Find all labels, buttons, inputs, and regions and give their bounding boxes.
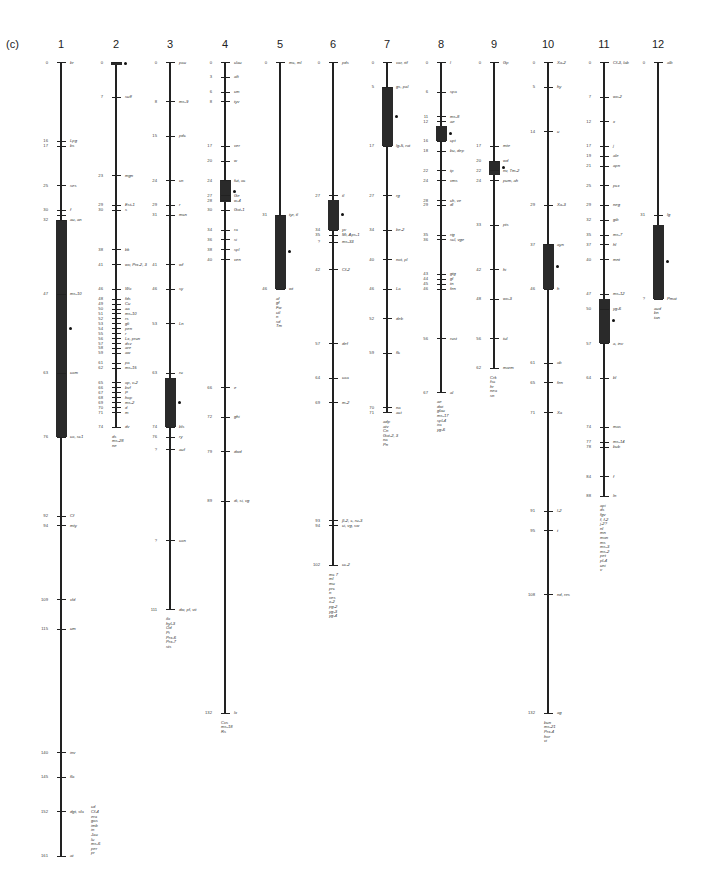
marker-tick — [112, 62, 121, 63]
unmapped-gene-list: cd Cf-4 era gas imb in Jau lu ms-6 per p… — [91, 805, 100, 856]
marker-position: 89 — [192, 498, 212, 503]
marker-position: 36 — [192, 237, 212, 242]
gene-label: vld — [70, 597, 75, 602]
marker-tick — [437, 116, 446, 117]
marker-position: 42 — [300, 267, 320, 272]
marker-tick — [112, 313, 121, 314]
marker-position: 24 — [408, 178, 428, 183]
gene-label: l-2 — [557, 508, 562, 513]
marker-position: 47 — [28, 291, 48, 296]
centromere-block — [328, 200, 339, 230]
marker-tick — [57, 752, 66, 753]
gene-label: pcx — [613, 183, 620, 188]
marker-position: 29 — [137, 202, 157, 207]
marker-tick — [112, 264, 121, 265]
gene-label: dl — [450, 202, 453, 207]
marker-position: 46 — [247, 286, 267, 291]
marker-tick — [166, 540, 175, 541]
marker-position: 65 — [515, 380, 535, 385]
marker-position: 25 — [28, 183, 48, 188]
marker-position: 5 — [515, 84, 535, 89]
gene-label: act — [396, 410, 402, 415]
marker-tick — [112, 343, 121, 344]
marker-tick — [329, 565, 338, 566]
gene-label: lx — [234, 710, 237, 715]
gene-label: ms-10 — [70, 291, 82, 296]
gene-label: tyv — [234, 99, 239, 104]
marker-tick — [112, 97, 121, 98]
marker-tick — [600, 343, 609, 344]
gene-label: Xa — [557, 410, 562, 415]
marker-position: 24 — [461, 178, 481, 183]
unmapped-gene-list: af gf Fw ctl n sd Tm — [276, 297, 282, 329]
centromere-marker-dot — [612, 319, 615, 322]
marker-position: 30 — [83, 207, 103, 212]
marker-position: 32 — [28, 217, 48, 222]
marker-tick — [654, 215, 663, 216]
marker-tick — [600, 121, 609, 122]
gene-label: dw, pf, vit — [179, 607, 196, 612]
marker-tick — [57, 220, 66, 221]
gene-label: spl — [234, 247, 239, 252]
marker-position: 27 — [354, 193, 374, 198]
marker-tick — [600, 97, 609, 98]
marker-position: 71 — [83, 410, 103, 415]
unmapped-gene-list: mc 7 ml mu prc n ves x-2 pg-2 yg-3 yg-4 — [329, 573, 338, 619]
marker-tick — [600, 235, 609, 236]
gene-label: fla — [70, 774, 74, 779]
gene-label: neg — [613, 202, 620, 207]
gene-label: ln — [613, 493, 616, 498]
marker-position: 0 — [515, 60, 535, 65]
marker-position: 46 — [354, 286, 374, 291]
marker-position: 91 — [515, 508, 535, 513]
gene-label: bs — [70, 143, 74, 148]
chromosome-axis — [547, 62, 548, 713]
gene-label: Xa-2 — [557, 60, 566, 65]
marker-tick — [57, 62, 66, 63]
marker-position: 30 — [28, 207, 48, 212]
chromosome-title: 2 — [113, 38, 119, 50]
marker-tick — [57, 294, 66, 295]
chromosome-axis — [115, 62, 116, 427]
panel-label: (c) — [6, 38, 19, 50]
marker-tick — [221, 713, 230, 714]
marker-tick — [383, 87, 392, 88]
gene-label: ra — [234, 227, 238, 232]
marker-tick — [600, 146, 609, 147]
marker-position: 20 — [461, 158, 481, 163]
marker-position: 132 — [192, 710, 212, 715]
gene-label: nv, Tm-2 — [503, 168, 519, 173]
marker-tick — [112, 323, 121, 324]
marker-tick — [57, 215, 66, 216]
marker-tick — [437, 92, 446, 93]
marker-tick — [57, 146, 66, 147]
gene-label: m — [125, 410, 129, 415]
marker-tick — [221, 161, 230, 162]
marker-position: 71 — [515, 410, 535, 415]
marker-tick — [544, 289, 553, 290]
gene-label: aft — [234, 74, 239, 79]
marker-position: 8 — [137, 99, 157, 104]
marker-tick — [221, 77, 230, 78]
gene-label: mgn — [125, 173, 133, 178]
marker-tick — [221, 230, 230, 231]
marker-position: 76 — [28, 434, 48, 439]
gene-label: tp — [450, 168, 454, 173]
gene-label: wf — [179, 262, 183, 267]
marker-tick — [544, 713, 553, 714]
marker-position: 12 — [571, 119, 591, 124]
marker-tick — [490, 225, 499, 226]
gene-label: mcn — [179, 212, 187, 217]
gene-label: yg-6 — [613, 306, 621, 311]
gene-label: cn — [179, 178, 183, 183]
marker-tick — [221, 501, 230, 502]
marker-position: 64 — [300, 375, 320, 380]
chromosome-title: 10 — [542, 38, 554, 50]
marker-tick — [57, 599, 66, 600]
marker-position: 14 — [515, 129, 535, 134]
chromosome-axis — [169, 62, 170, 609]
marker-tick — [437, 200, 446, 201]
gene-label: cc-2 — [342, 562, 350, 567]
marker-position: 108 — [515, 592, 535, 597]
marker-position: 20 — [192, 158, 212, 163]
